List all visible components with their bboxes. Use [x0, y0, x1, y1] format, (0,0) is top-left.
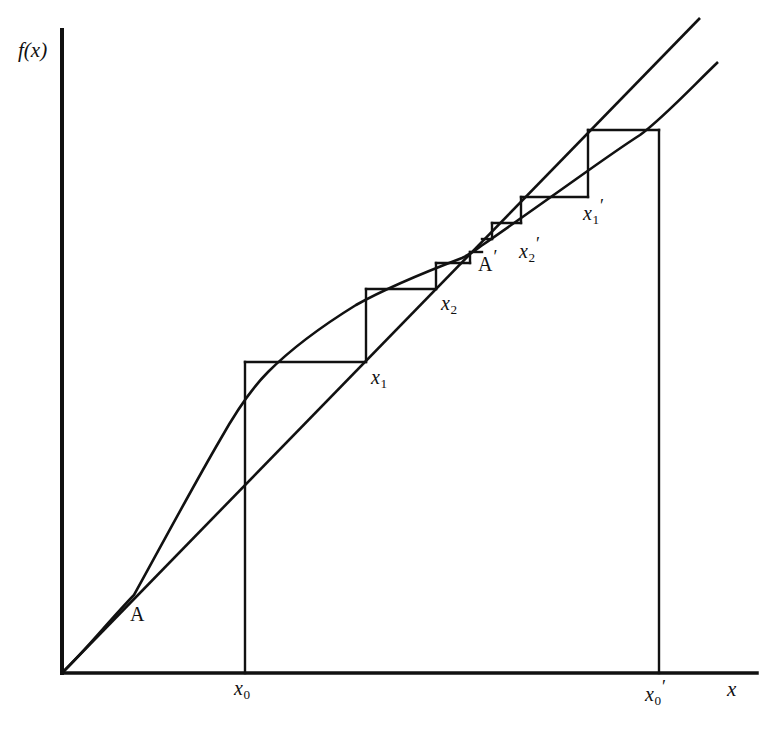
tick-label-x0p-sub: 0 — [654, 693, 661, 708]
tick-label-x2p-base: x — [519, 240, 528, 262]
tick-label-x0-sub: 0 — [243, 687, 250, 702]
tick-label-x1: x1 — [371, 367, 387, 390]
plot-canvas — [0, 0, 769, 730]
tick-label-x1-base: x — [371, 366, 380, 388]
point-label-A: A — [130, 604, 144, 624]
prime-mark-x0p: ′ — [661, 677, 666, 697]
tick-label-x2-base: x — [441, 292, 450, 314]
x-axis-label: x — [727, 679, 736, 700]
prime-mark-x1p: ′ — [599, 196, 604, 216]
tick-label-x2-sub: 2 — [450, 302, 457, 317]
tick-label-x1p-sub: 1 — [592, 212, 599, 227]
x-axis-label-text: x — [727, 677, 736, 701]
tick-label-x1p-base: x — [583, 202, 592, 224]
tick-label-x0: x0 — [234, 678, 250, 701]
y-axis-label-text: f(x) — [18, 38, 47, 62]
y-axis-label: f(x) — [18, 40, 47, 61]
axes-group — [62, 30, 757, 673]
tick-label-x2-prime: x2′ — [519, 235, 540, 264]
tick-label-x2p-sub: 2 — [528, 250, 535, 265]
figure-cobweb-diagram: f(x) x A A′ x0 x0′ x1 x2 x1′ x2′ — [0, 0, 769, 730]
tick-label-x0-base: x — [234, 677, 243, 699]
tick-label-x0-prime: x0′ — [645, 678, 666, 707]
cobweb-right-staircase — [482, 130, 659, 673]
f-curve — [62, 62, 718, 673]
prime-mark-x2p: ′ — [535, 234, 540, 254]
tick-label-x1-sub: 1 — [380, 376, 387, 391]
point-label-A-text: A — [130, 603, 144, 625]
prime-mark-A: ′ — [492, 247, 497, 267]
identity-line — [62, 18, 700, 673]
tick-label-x1-prime: x1′ — [583, 197, 604, 226]
point-label-A-prime: A′ — [478, 248, 497, 274]
point-label-A-prime-text: A — [478, 253, 492, 275]
tick-label-x0p-base: x — [645, 683, 654, 705]
tick-label-x2: x2 — [441, 293, 457, 316]
